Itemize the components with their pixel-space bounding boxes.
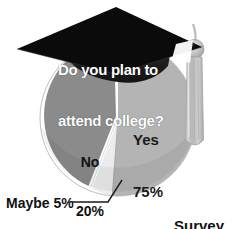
slice-label-no-value: 20% [68,203,112,219]
chart-title-line-1: Do you plan to [58,61,184,78]
chart-footer-line-1: Survey [174,217,228,229]
tassel-highlight [188,59,189,137]
slice-label-yes: Yes 75% [133,96,163,229]
slice-label-maybe: Maybe 5% [6,196,74,211]
slice-label-yes-value: 75% [133,183,163,200]
survey-pie-chart-figure: Do you plan to attend college? Yes 75% N… [0,0,232,229]
chart-footer-caption: Survey Results [174,182,228,229]
slice-label-yes-name: Yes [133,131,163,148]
slice-label-no: No 20% [68,122,112,229]
slice-label-no-name: No [68,154,112,170]
